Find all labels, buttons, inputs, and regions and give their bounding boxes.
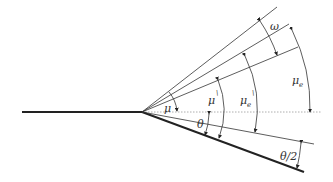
mu-prime-arc xyxy=(218,80,224,138)
mu-label: μ xyxy=(164,102,171,115)
mu-e-arc xyxy=(292,30,310,112)
ray-middle xyxy=(142,24,289,112)
omega-label: ω xyxy=(270,20,279,33)
theta-half-label: θ/2 xyxy=(280,150,297,163)
mu-e-prime-mark: \ xyxy=(252,89,254,97)
mu-e-prime-sub: e xyxy=(247,101,251,109)
mu-prime-label: μ xyxy=(208,94,215,107)
mu-e-sub: e xyxy=(299,81,303,89)
mu-prime-mark: \ xyxy=(216,89,218,97)
wedge-angle-diagram: ω μ μ \ μ e \ μ e θ θ/2 xyxy=(0,0,333,182)
theta-label: θ xyxy=(197,118,204,131)
theta-ray xyxy=(142,112,314,144)
theta-half-arc xyxy=(297,143,301,168)
